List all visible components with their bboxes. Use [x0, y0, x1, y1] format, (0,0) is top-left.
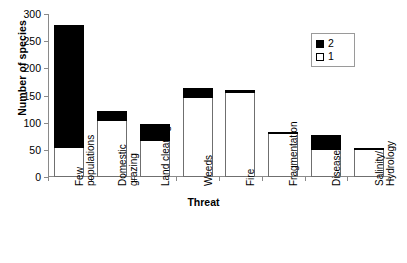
- bar-segment-series-2: [54, 25, 84, 148]
- x-axis-category-label: Fire: [245, 169, 256, 186]
- y-axis-tick: [44, 41, 48, 42]
- x-axis-tick: [176, 177, 177, 181]
- x-axis-category-label: Weeds: [203, 155, 214, 186]
- filled-square-icon: [316, 40, 324, 48]
- x-axis-tick: [262, 177, 263, 181]
- legend: 2 1: [311, 33, 355, 67]
- y-axis-tick: [44, 150, 48, 151]
- open-square-icon: [316, 53, 324, 61]
- legend-item: 2: [316, 37, 350, 50]
- x-axis-tick: [219, 177, 220, 181]
- chart-container: Number of species Threat 050100150200250…: [0, 0, 407, 263]
- bar-5: [225, 90, 255, 177]
- bar-segment-series-2: [183, 88, 213, 98]
- x-axis-tick: [305, 177, 306, 181]
- bar-segment-series-2: [311, 135, 341, 150]
- y-axis-tick-label: 100: [23, 117, 41, 128]
- x-axis-category-label: Land clearing: [160, 126, 171, 186]
- y-axis-line: [48, 14, 49, 177]
- x-axis-category-label: Disease: [331, 150, 342, 186]
- y-axis-tick-label: 200: [23, 63, 41, 74]
- y-axis-tick-label: 0: [35, 172, 41, 183]
- bar-segment-series-1: [225, 93, 255, 177]
- y-axis-tick: [44, 96, 48, 97]
- legend-item: 1: [316, 50, 350, 63]
- y-axis-tick-label: 150: [23, 90, 41, 101]
- y-axis-tick-label: 300: [23, 9, 41, 20]
- y-axis-tick-label: 250: [23, 36, 41, 47]
- y-axis-tick: [44, 123, 48, 124]
- x-axis-tick: [347, 177, 348, 181]
- y-axis-tick-label: 50: [29, 145, 41, 156]
- y-axis-tick: [44, 68, 48, 69]
- x-axis-category-label: Salinity/ Hydrology: [374, 141, 396, 186]
- bar-segment-series-2: [97, 111, 127, 121]
- legend-item-label: 2: [328, 38, 334, 49]
- x-axis-category-label: Few populations: [74, 135, 96, 186]
- y-axis-tick: [44, 14, 48, 15]
- x-axis-tick: [48, 177, 49, 181]
- x-axis-category-label: Fragmentation: [288, 122, 299, 186]
- legend-item-label: 1: [328, 51, 334, 62]
- x-axis-title: Threat: [0, 196, 407, 208]
- x-axis-category-label: Domestic grazing: [117, 144, 139, 186]
